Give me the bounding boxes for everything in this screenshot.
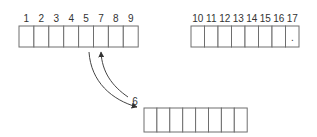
cell-mark: . — [291, 32, 294, 43]
cell-index-label: 7 — [98, 13, 104, 24]
array-cell — [272, 26, 286, 47]
down-arrow — [89, 52, 137, 107]
array-cell — [234, 108, 247, 132]
up-arrow — [101, 52, 128, 97]
cell-index-label: 3 — [54, 13, 60, 24]
cell-index-label: 10 — [192, 13, 204, 24]
array-cell — [245, 26, 259, 47]
array-cell — [259, 26, 273, 47]
array-cell — [209, 108, 222, 132]
cell-index-label: 14 — [246, 13, 258, 24]
cell-index-label: 5 — [83, 13, 89, 24]
array-cell — [157, 108, 170, 132]
label-6: 6 — [132, 96, 138, 107]
cell-index-label: 8 — [113, 13, 119, 24]
cell-index-label: 16 — [273, 13, 285, 24]
array-top-left: 12345789 — [19, 13, 138, 47]
array-cell — [183, 108, 196, 132]
array-cell — [108, 26, 123, 47]
array-cell — [19, 26, 34, 47]
array-cell — [49, 26, 64, 47]
array-cell — [79, 26, 94, 47]
cell-index-label: 17 — [287, 13, 299, 24]
diagram-canvas: 12345789 1011121314151617. 6 — [0, 0, 317, 137]
array-cell — [34, 26, 49, 47]
array-cell — [205, 26, 219, 47]
array-cell — [123, 26, 138, 47]
array-cell — [232, 26, 246, 47]
array-top-right: 1011121314151617. — [191, 13, 299, 47]
array-cell — [196, 108, 209, 132]
array-bottom — [144, 108, 247, 132]
cell-index-label: 1 — [24, 13, 30, 24]
cell-index-label: 4 — [68, 13, 74, 24]
array-cell — [94, 26, 109, 47]
array-cell — [64, 26, 79, 47]
cell-index-label: 13 — [233, 13, 245, 24]
cell-index-label: 15 — [260, 13, 272, 24]
cell-index-label: 11 — [206, 13, 217, 24]
cell-index-label: 2 — [39, 13, 45, 24]
array-cell — [191, 26, 205, 47]
cell-index-label: 9 — [128, 13, 134, 24]
array-cell — [144, 108, 157, 132]
array-cell — [221, 108, 234, 132]
array-cell — [218, 26, 232, 47]
cell-index-label: 12 — [219, 13, 231, 24]
array-cell — [170, 108, 183, 132]
